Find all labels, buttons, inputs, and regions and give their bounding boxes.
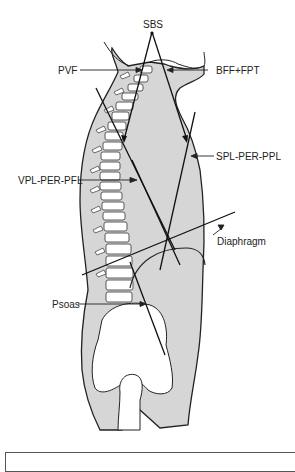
label-vpl-per-pfl: VPL-PER-PFL xyxy=(18,175,83,186)
label-sbs: SBS xyxy=(143,19,163,30)
caption-box xyxy=(5,452,295,472)
label-bff-fpt: BFF+FPT xyxy=(216,65,260,76)
label-pvf: PVF xyxy=(58,65,77,76)
label-diaphragm: Diaphragm xyxy=(217,236,266,247)
femur xyxy=(118,374,142,430)
label-psoas: Psoas xyxy=(52,299,80,310)
label-spl-per-ppl: SPL-PER-PPL xyxy=(216,151,281,162)
